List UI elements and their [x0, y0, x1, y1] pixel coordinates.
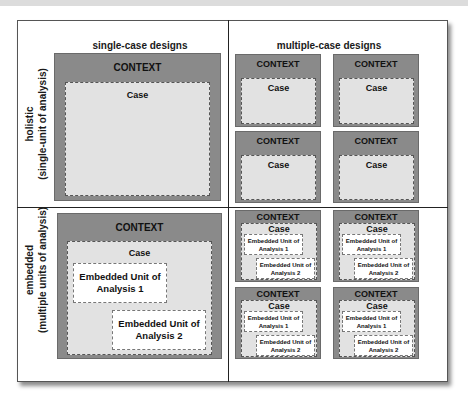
context-box-multi-embedded-4: CONTEXT Case Embedded Unit ofAnalysis 1 …	[333, 287, 419, 359]
context-label: CONTEXT	[334, 136, 418, 146]
context-label: CONTEXT	[236, 289, 320, 299]
context-box-single-embedded: CONTEXT Case Embedded Unit ofAnalysis 1 …	[57, 213, 222, 359]
case-box: Case Embedded Unit ofAnalysis 1 Embedded…	[339, 300, 415, 357]
context-label: CONTEXT	[236, 59, 320, 69]
context-box-single-holistic: CONTEXT Case	[54, 53, 221, 201]
embedded-unit-2: Embedded Unit ofAnalysis 2	[354, 335, 413, 356]
embedded-unit-2: Embedded Unit ofAnalysis 2	[354, 258, 413, 279]
row-label-embedded-main: embedded	[23, 195, 36, 345]
case-label: Case	[242, 301, 316, 311]
case-label: Case	[66, 90, 209, 100]
row-label-holistic-main: holistic	[23, 49, 36, 199]
case-label: Case	[242, 83, 315, 93]
case-box: Case	[241, 155, 316, 200]
context-box-multi-embedded-1: CONTEXT Case Embedded Unit ofAnalysis 1 …	[235, 210, 321, 282]
context-box-multi-embedded-3: CONTEXT Case Embedded Unit ofAnalysis 1 …	[235, 287, 321, 359]
context-label: CONTEXT	[334, 289, 418, 299]
context-label: CONTEXT	[236, 212, 320, 222]
case-label: Case	[340, 83, 413, 93]
row-label-holistic-sub: (single-unit of analysis)	[36, 49, 49, 199]
embedded-unit-1: Embedded Unit ofAnalysis 1	[244, 234, 303, 255]
case-box: Case	[241, 78, 316, 124]
row-label-embedded-sub: (multiple units of analysis)	[36, 195, 49, 345]
column-divider	[228, 20, 229, 382]
row-label-embedded: embedded (multiple units of analysis)	[23, 195, 51, 345]
case-label: Case	[340, 301, 414, 311]
row-divider	[17, 207, 448, 208]
column-title-single: single-case designs	[60, 40, 220, 51]
context-box-multi-holistic-4: CONTEXT Case	[333, 131, 419, 203]
embedded-unit-1: Embedded Unit ofAnalysis 1	[342, 311, 401, 332]
context-box-multi-holistic-2: CONTEXT Case	[333, 54, 419, 127]
case-box: Case	[339, 155, 414, 200]
case-label: Case	[340, 224, 414, 234]
context-box-multi-embedded-2: CONTEXT Case Embedded Unit ofAnalysis 1 …	[333, 210, 419, 282]
column-title-multiple: multiple-case designs	[234, 40, 424, 51]
context-box-multi-holistic-3: CONTEXT Case	[235, 131, 321, 203]
case-box: Case Embedded Unit ofAnalysis 1 Embedded…	[339, 223, 415, 280]
case-label: Case	[242, 160, 315, 170]
embedded-unit-2: Embedded Unit ofAnalysis 2	[256, 258, 315, 279]
case-label: Case	[68, 248, 211, 258]
top-band	[0, 0, 468, 6]
context-label: CONTEXT	[334, 59, 418, 69]
case-box: Case	[339, 78, 414, 124]
context-box-multi-holistic-1: CONTEXT Case	[235, 54, 321, 127]
case-label: Case	[340, 160, 413, 170]
embedded-unit-1: Embedded Unit ofAnalysis 1	[73, 263, 167, 303]
context-label: CONTEXT	[58, 222, 221, 233]
row-label-holistic: holistic (single-unit of analysis)	[23, 49, 51, 199]
embedded-unit-1: Embedded Unit ofAnalysis 1	[244, 311, 303, 332]
embedded-unit-2: Embedded Unit ofAnalysis 2	[256, 335, 315, 356]
context-label: CONTEXT	[55, 62, 220, 73]
case-box: Case	[65, 82, 210, 196]
case-box: Case Embedded Unit ofAnalysis 1 Embedded…	[67, 241, 212, 355]
embedded-unit-1: Embedded Unit ofAnalysis 1	[342, 234, 401, 255]
embedded-unit-2: Embedded Unit ofAnalysis 2	[112, 310, 206, 350]
case-box: Case Embedded Unit ofAnalysis 1 Embedded…	[241, 223, 317, 280]
context-label: CONTEXT	[236, 136, 320, 146]
case-label: Case	[242, 224, 316, 234]
case-box: Case Embedded Unit ofAnalysis 1 Embedded…	[241, 300, 317, 357]
context-label: CONTEXT	[334, 212, 418, 222]
